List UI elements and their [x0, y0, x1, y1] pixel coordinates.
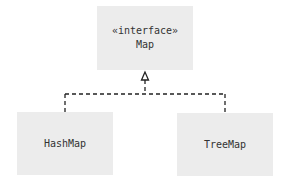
hollow-triangle-arrowhead-icon	[142, 72, 149, 80]
class-box-map: «interface» Map	[97, 6, 193, 70]
stereotype-label: «interface»	[112, 24, 178, 38]
class-name: HashMap	[44, 137, 86, 151]
class-box-treemap: TreeMap	[177, 113, 273, 176]
class-box-hashmap: HashMap	[17, 112, 113, 175]
class-name: TreeMap	[204, 138, 246, 152]
class-name: Map	[136, 38, 154, 52]
